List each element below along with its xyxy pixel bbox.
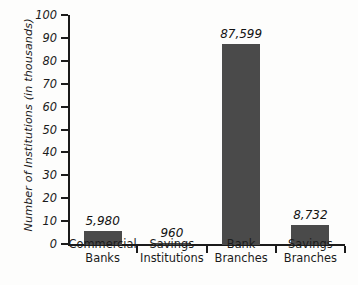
bar-value-label: 87,599 [220,27,262,41]
y-tick-mark [61,14,68,16]
x-category-label-line: Savings [276,238,345,252]
bar-slot: 87,599 [207,16,276,245]
y-tick-mark [61,151,68,153]
x-category-label-line: Institutions [137,252,206,266]
y-tick-label: 50 [43,123,58,137]
x-category-label-line: Bank [207,238,276,252]
y-tick-label: 90 [43,31,58,45]
x-category-label: SavingsBranches [276,238,345,265]
bar [222,44,260,245]
y-tick-label: 40 [43,145,58,159]
y-tick-mark [61,174,68,176]
y-tick-label: 80 [43,54,58,68]
y-tick-label: 70 [43,77,58,91]
y-tick-mark [61,37,68,39]
x-category-label-line: Branches [207,252,276,266]
y-tick-mark [61,220,68,222]
bar-value-label: 5,980 [85,214,119,228]
y-tick-mark [61,60,68,62]
bar-value-label: 8,732 [293,208,327,222]
bar-slot: 960 [137,16,206,245]
y-tick-label: 60 [43,100,58,114]
y-tick-label: 30 [43,168,58,182]
x-category-label-line: Commercial [68,238,137,252]
x-category-label: BankBranches [207,238,276,265]
x-category-label-line: Savings [137,238,206,252]
y-tick-label: 0 [50,237,57,251]
y-tick-mark [61,83,68,85]
x-category-label: CommercialBanks [68,238,137,265]
y-tick-mark [61,106,68,108]
bar-chart: Number of Institutions (in thousands) 01… [0,0,358,285]
y-tick-label: 20 [43,191,58,205]
y-tick-mark [61,129,68,131]
y-tick-label: 100 [35,8,57,22]
x-category-label-line: Banks [68,252,137,266]
x-category-label-line: Branches [276,252,345,266]
y-axis-title: Number of Institutions (in thousands) [22,22,35,232]
bar-slot: 8,732 [276,16,345,245]
plot-area: 0102030405060708090100 5,98096087,5998,7… [68,15,345,245]
y-tick-mark [61,197,68,199]
y-tick-mark [61,243,68,245]
x-category-label: SavingsInstitutions [137,238,206,265]
bar-slot: 5,980 [68,16,137,245]
y-tick-label: 10 [43,214,58,228]
